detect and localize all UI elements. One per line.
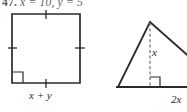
right-angle-marker [12, 72, 23, 83]
square-base-label: x + y [29, 89, 52, 101]
right-angle-marker [150, 77, 160, 87]
triangle-base-label: 2x [171, 93, 181, 105]
square-figure [8, 10, 85, 88]
triangle-height-label: x [152, 46, 157, 58]
figure-page: 47. x = 10, y = 5 x + y x 2x [0, 0, 187, 112]
square-outline [12, 14, 80, 83]
